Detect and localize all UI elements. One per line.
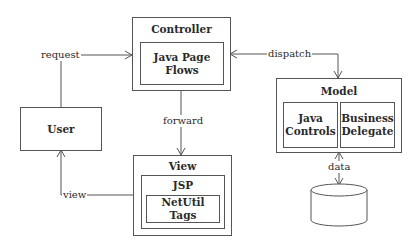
- forward-label: forward: [162, 115, 204, 127]
- database-cylinder-top: [311, 184, 367, 196]
- java-page-flows-box: Java Page Flows: [140, 42, 224, 85]
- request-label: request: [40, 49, 81, 61]
- view-box: View JSP NetUtil Tags: [133, 155, 232, 236]
- java-controls-box: Java Controls: [283, 102, 338, 148]
- model-box: Model Java Controls Business Delegate: [276, 78, 402, 153]
- netutil-tags-box: NetUtil Tags: [146, 195, 220, 223]
- model-title: Model: [277, 85, 401, 97]
- jsp-box: JSP NetUtil Tags: [141, 175, 225, 229]
- request-edge: [61, 55, 132, 107]
- business-delegate-box: Business Delegate: [340, 102, 395, 148]
- controller-title: Controller: [133, 23, 230, 35]
- view-label: view: [62, 189, 87, 201]
- data-label: data: [327, 161, 351, 173]
- controller-box: Controller Java Page Flows: [132, 17, 231, 91]
- jsp-title: JSP: [142, 179, 224, 191]
- user-box: User: [20, 107, 102, 151]
- view-title: View: [134, 160, 231, 172]
- dispatch-label: dispatch: [267, 48, 312, 60]
